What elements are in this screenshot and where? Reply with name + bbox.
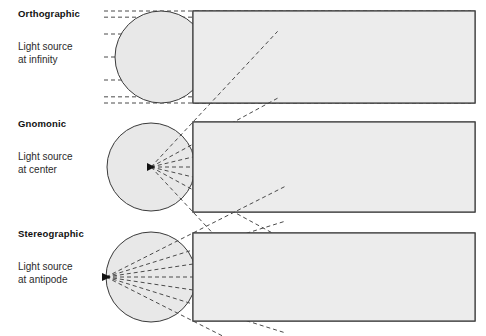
gnomonic-projection-grid-border (193, 122, 475, 212)
panel-stereographic-artwork (0, 220, 486, 332)
orthographic-projection-grid-border (193, 11, 475, 103)
gnomonic-projection-grid (193, 122, 475, 212)
panel-gnomonic: Gnomonic Light source at center (0, 110, 486, 222)
panel-orthographic: Orthographic Light source at infinity (0, 0, 486, 112)
stereographic-projection-grid (193, 233, 475, 321)
orthographic-projection-grid (193, 11, 475, 103)
panel-stereographic: Stereographic Light source at antipode (0, 220, 486, 332)
panel-gnomonic-artwork (0, 110, 486, 222)
projection-diagram: Orthographic Light source at infinity Gn… (0, 0, 486, 336)
stereographic-projection-grid-border (193, 233, 475, 321)
panel-orthographic-artwork (0, 0, 486, 112)
